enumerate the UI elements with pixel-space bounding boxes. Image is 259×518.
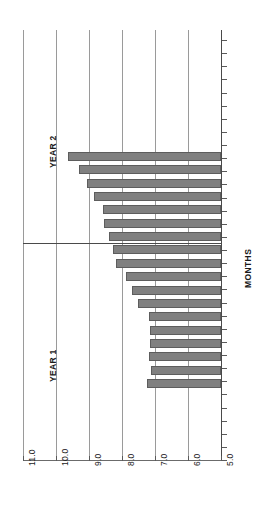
category-tick: [222, 53, 227, 54]
value-axis-label-11: 11.0: [27, 449, 37, 466]
value-tick-11: [23, 456, 24, 461]
category-tick: [222, 289, 227, 290]
category-tick: [222, 381, 227, 382]
category-tick: [222, 119, 227, 120]
bar: [150, 326, 221, 335]
category-tick: [222, 263, 227, 264]
bar: [151, 366, 221, 375]
bar: [149, 312, 221, 321]
value-axis-label-9: 9.0: [93, 454, 103, 466]
category-tick: [222, 316, 227, 317]
gridline-11: [23, 30, 24, 460]
category-tick: [222, 250, 227, 251]
category-tick: [222, 276, 227, 277]
category-tick: [222, 237, 227, 238]
bar-chart: 11.010.09.08.07.06.05.0 MONTHS YEAR 2 YE…: [0, 0, 259, 518]
category-tick: [222, 132, 227, 133]
category-tick: [222, 303, 227, 304]
plot-area: 11.010.09.08.07.06.05.0 MONTHS YEAR 2 YE…: [0, 0, 259, 518]
group-label-year-1: YEAR 1: [48, 349, 58, 382]
bar: [150, 339, 221, 348]
axis-title-months: MONTHS: [243, 249, 253, 288]
category-tick: [222, 184, 227, 185]
category-tick: [222, 79, 227, 80]
value-tick-7: [155, 456, 156, 461]
value-tick-9: [89, 456, 90, 461]
value-axis-label-10: 10.0: [60, 449, 70, 466]
category-tick: [222, 93, 227, 94]
value-axis-label-5: 5.0: [225, 454, 235, 466]
category-tick: [222, 106, 227, 107]
category-tick: [222, 368, 227, 369]
category-axis-line: [221, 30, 222, 460]
category-tick: [222, 394, 227, 395]
category-tick: [222, 355, 227, 356]
bar: [104, 219, 221, 228]
category-tick: [222, 211, 227, 212]
value-tick-6: [188, 456, 189, 461]
bar: [68, 152, 221, 161]
category-tick: [222, 224, 227, 225]
value-axis-label-8: 8.0: [126, 454, 136, 466]
category-tick: [222, 66, 227, 67]
group-label-year-2: YEAR 2: [48, 135, 58, 168]
category-tick: [222, 40, 227, 41]
value-axis-label-7: 7.0: [159, 454, 169, 466]
bar: [126, 272, 221, 281]
bar: [113, 245, 221, 254]
bar: [147, 379, 221, 388]
bar: [132, 286, 221, 295]
gridline-10: [56, 30, 57, 460]
bar: [109, 232, 221, 241]
category-tick: [222, 342, 227, 343]
bar: [149, 352, 221, 361]
value-tick-10: [56, 456, 57, 461]
bar: [87, 179, 221, 188]
gridline-9: [89, 30, 90, 460]
bar: [79, 165, 221, 174]
value-axis-label-6: 6.0: [192, 454, 202, 466]
category-tick: [222, 198, 227, 199]
category-tick: [222, 434, 227, 435]
category-tick: [222, 447, 227, 448]
bar: [103, 205, 221, 214]
category-tick: [222, 329, 227, 330]
category-tick: [222, 421, 227, 422]
bar: [138, 299, 221, 308]
category-tick: [222, 145, 227, 146]
bar: [94, 192, 221, 201]
category-tick: [222, 158, 227, 159]
value-tick-8: [122, 456, 123, 461]
group-separator: [23, 243, 222, 244]
category-tick: [222, 171, 227, 172]
category-tick: [222, 408, 227, 409]
bar: [116, 259, 221, 268]
